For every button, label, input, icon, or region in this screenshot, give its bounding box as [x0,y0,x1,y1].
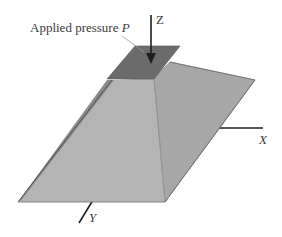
pressure-symbol: P [122,20,130,35]
y-axis-label: Y [89,211,96,224]
x-axis-label: X [259,133,267,146]
z-axis-label: Z [156,13,164,26]
pyramid-pressure-diagram [0,0,282,237]
applied-pressure-label: Applied pressure P [30,21,130,34]
pyramid-right-face [154,62,255,202]
pyramid-left-face [20,78,165,202]
applied-pressure-text: Applied pressure [30,20,122,35]
